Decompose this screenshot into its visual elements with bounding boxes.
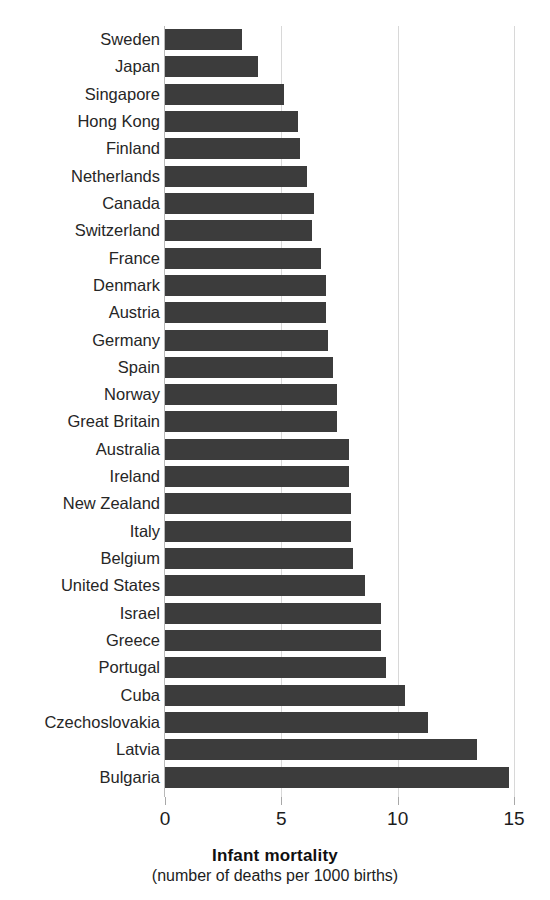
category-label: New Zealand bbox=[0, 490, 160, 517]
bar bbox=[165, 548, 353, 569]
bar bbox=[165, 138, 300, 159]
category-label: Italy bbox=[0, 518, 160, 545]
x-axis-ticks: 051015 bbox=[0, 797, 550, 837]
bar-row bbox=[165, 490, 514, 517]
category-label: France bbox=[0, 245, 160, 272]
bar bbox=[165, 220, 312, 241]
bar-row bbox=[165, 709, 514, 736]
gridline-15 bbox=[514, 26, 515, 797]
axis-title: Infant mortality bbox=[0, 846, 550, 866]
category-label: Great Britain bbox=[0, 408, 160, 435]
bar bbox=[165, 685, 405, 706]
bar-row bbox=[165, 764, 514, 791]
bar-row bbox=[165, 627, 514, 654]
tick-label-0: 0 bbox=[160, 808, 171, 830]
bar-row bbox=[165, 436, 514, 463]
bar-row bbox=[165, 572, 514, 599]
category-label: Germany bbox=[0, 327, 160, 354]
category-label: Canada bbox=[0, 190, 160, 217]
bar bbox=[165, 29, 242, 50]
bar bbox=[165, 603, 381, 624]
category-label: Ireland bbox=[0, 463, 160, 490]
category-label: Switzerland bbox=[0, 217, 160, 244]
bar-row bbox=[165, 299, 514, 326]
category-label: Latvia bbox=[0, 736, 160, 763]
bars-layer bbox=[165, 26, 514, 797]
tick-mark-0 bbox=[165, 797, 166, 805]
category-label: Cuba bbox=[0, 682, 160, 709]
bar-row bbox=[165, 53, 514, 80]
axis-title-block: Infant mortality (number of deaths per 1… bbox=[0, 846, 550, 886]
bar-row bbox=[165, 272, 514, 299]
bar-row bbox=[165, 217, 514, 244]
bar-row bbox=[165, 654, 514, 681]
bar bbox=[165, 330, 328, 351]
bar-row bbox=[165, 381, 514, 408]
category-label: Austria bbox=[0, 299, 160, 326]
bar-row bbox=[165, 245, 514, 272]
bar bbox=[165, 302, 326, 323]
tick-mark-10 bbox=[398, 797, 399, 805]
bar bbox=[165, 248, 321, 269]
category-label: Japan bbox=[0, 53, 160, 80]
bar bbox=[165, 411, 337, 432]
category-label: Bulgaria bbox=[0, 764, 160, 791]
bar-row bbox=[165, 408, 514, 435]
category-label: Portugal bbox=[0, 654, 160, 681]
tick-label-5: 5 bbox=[276, 808, 287, 830]
bar bbox=[165, 657, 386, 678]
tick-mark-15 bbox=[514, 797, 515, 805]
bar-row bbox=[165, 327, 514, 354]
bar-row bbox=[165, 600, 514, 627]
category-label: Czechoslovakia bbox=[0, 709, 160, 736]
bar bbox=[165, 712, 428, 733]
plot-area bbox=[165, 26, 514, 797]
bar bbox=[165, 166, 307, 187]
bar bbox=[165, 357, 333, 378]
bar bbox=[165, 493, 351, 514]
bar-row bbox=[165, 190, 514, 217]
category-axis-labels: SwedenJapanSingaporeHong KongFinlandNeth… bbox=[0, 26, 160, 797]
category-label: Denmark bbox=[0, 272, 160, 299]
category-label: Norway bbox=[0, 381, 160, 408]
bar bbox=[165, 56, 258, 77]
bar bbox=[165, 575, 365, 596]
bar-row bbox=[165, 135, 514, 162]
category-label: United States bbox=[0, 572, 160, 599]
category-label: Singapore bbox=[0, 81, 160, 108]
tick-label-15: 15 bbox=[503, 808, 524, 830]
bar-row bbox=[165, 682, 514, 709]
bar bbox=[165, 521, 351, 542]
bar bbox=[165, 439, 349, 460]
infant-mortality-bar-chart: SwedenJapanSingaporeHong KongFinlandNeth… bbox=[0, 0, 550, 900]
category-label: Hong Kong bbox=[0, 108, 160, 135]
bar-row bbox=[165, 354, 514, 381]
category-label: Israel bbox=[0, 600, 160, 627]
bar-row bbox=[165, 545, 514, 572]
bar-row bbox=[165, 518, 514, 545]
tick-label-10: 10 bbox=[387, 808, 408, 830]
category-label: Finland bbox=[0, 135, 160, 162]
bar bbox=[165, 739, 477, 760]
bar bbox=[165, 466, 349, 487]
bar bbox=[165, 767, 509, 788]
category-label: Netherlands bbox=[0, 163, 160, 190]
bar bbox=[165, 193, 314, 214]
bar bbox=[165, 630, 381, 651]
bar bbox=[165, 111, 298, 132]
category-label: Belgium bbox=[0, 545, 160, 572]
category-label: Spain bbox=[0, 354, 160, 381]
bar-row bbox=[165, 81, 514, 108]
category-label: Australia bbox=[0, 436, 160, 463]
bar-row bbox=[165, 108, 514, 135]
axis-subtitle: (number of deaths per 1000 births) bbox=[0, 866, 550, 886]
tick-mark-5 bbox=[281, 797, 282, 805]
bar bbox=[165, 84, 284, 105]
category-label: Greece bbox=[0, 627, 160, 654]
bar bbox=[165, 275, 326, 296]
category-label: Sweden bbox=[0, 26, 160, 53]
bar-row bbox=[165, 463, 514, 490]
bar-row bbox=[165, 26, 514, 53]
bar bbox=[165, 384, 337, 405]
bar-row bbox=[165, 736, 514, 763]
